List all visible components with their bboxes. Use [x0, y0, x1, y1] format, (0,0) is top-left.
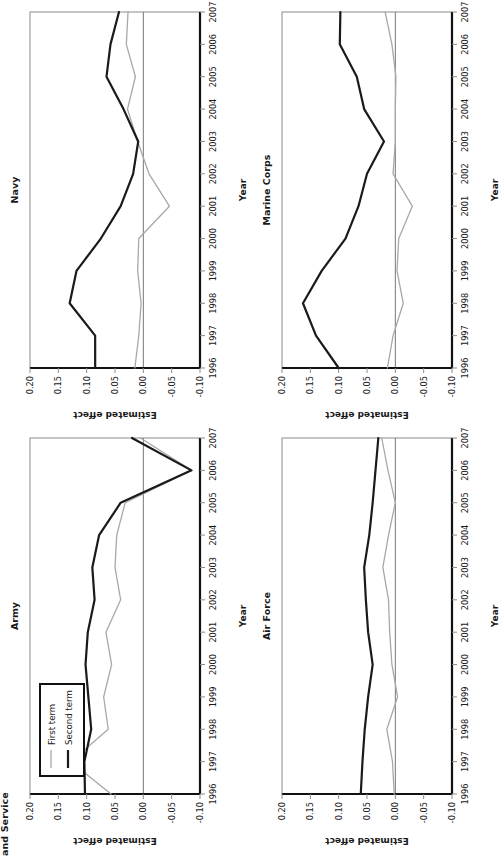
series-line-second-term	[303, 12, 384, 368]
x-tick-label: 1999	[208, 686, 218, 707]
x-tick-label: 2000	[460, 654, 470, 675]
x-tick-label: 2007	[208, 2, 218, 23]
y-tick-label: -0.10	[195, 802, 205, 823]
x-tick-label: 1998	[460, 719, 470, 740]
panel-title: Air Force	[261, 592, 272, 640]
y-axis-label: Estimated effect	[73, 410, 157, 420]
y-tick-label: 0.00	[138, 376, 148, 394]
panel-marine-corps: 0.200.150.100.050.00-0.05-0.101996199719…	[252, 0, 504, 426]
x-tick-label: 2006	[460, 34, 470, 55]
x-tick-label: 2003	[460, 557, 470, 578]
x-tick-label: 2002	[208, 589, 218, 610]
y-tick-label: 0.05	[110, 376, 120, 394]
y-tick-label: 0.15	[305, 802, 315, 820]
y-tick-label: -0.10	[447, 376, 457, 397]
y-tick-label: 0.00	[138, 802, 148, 820]
x-tick-label: 2002	[208, 163, 218, 184]
x-tick-label: 2002	[460, 163, 470, 184]
x-tick-label: 2003	[208, 131, 218, 152]
x-tick-label: 2001	[208, 196, 218, 217]
x-tick-label: 2003	[208, 557, 218, 578]
y-tick-label: 0.10	[334, 802, 344, 820]
x-tick-label: 2000	[460, 228, 470, 249]
x-tick-label: 2006	[208, 460, 218, 481]
x-tick-label: 2001	[460, 196, 470, 217]
y-axis-label: Estimated effect	[325, 836, 409, 846]
x-tick-label: 2007	[460, 2, 470, 23]
x-tick-label: 2005	[460, 66, 470, 87]
x-tick-label: 1997	[208, 751, 218, 772]
y-tick-label: 0.05	[362, 376, 372, 394]
y-tick-label: 0.20	[25, 376, 35, 394]
x-tick-label: 2005	[460, 492, 470, 513]
y-tick-label: -0.05	[419, 802, 429, 823]
x-axis-label: Year	[238, 604, 248, 628]
x-tick-label: 2006	[208, 34, 218, 55]
y-tick-label: -0.05	[167, 376, 177, 397]
x-axis-label: Year	[490, 178, 500, 202]
x-tick-label: 1997	[460, 751, 470, 772]
series-line-first-term	[385, 12, 412, 368]
y-tick-label: 0.10	[82, 376, 92, 394]
y-tick-label: 0.20	[277, 802, 287, 820]
x-tick-label: 1998	[208, 293, 218, 314]
series-line-second-term	[361, 438, 379, 794]
x-tick-label: 2001	[460, 622, 470, 643]
panel-army: 0.200.150.100.050.00-0.05-0.101996199719…	[0, 426, 252, 852]
x-tick-label: 2000	[208, 654, 218, 675]
x-tick-label: 2004	[208, 525, 218, 546]
y-tick-label: 0.00	[390, 802, 400, 820]
y-tick-label: 0.20	[25, 802, 35, 820]
x-tick-label: 2004	[460, 525, 470, 546]
y-tick-label: 0.10	[334, 376, 344, 394]
x-tick-label: 2007	[208, 428, 218, 449]
x-tick-label: 2003	[460, 131, 470, 152]
y-tick-label: -0.05	[419, 376, 429, 397]
x-tick-label: 2004	[208, 99, 218, 120]
x-tick-label: 1998	[208, 719, 218, 740]
y-tick-label: 0.05	[362, 802, 372, 820]
x-tick-label: 1996	[208, 358, 218, 379]
y-tick-label: -0.05	[167, 802, 177, 823]
x-axis-label: Year	[238, 178, 248, 202]
panel-title: Marine Corps	[261, 154, 272, 225]
y-tick-label: 0.15	[53, 802, 63, 820]
series-line-second-term	[84, 438, 191, 794]
legend-label-second-term: Second term	[64, 690, 74, 745]
y-tick-label: 0.00	[390, 376, 400, 394]
x-tick-label: 1999	[208, 260, 218, 281]
x-tick-label: 2002	[460, 589, 470, 610]
x-tick-label: 2005	[208, 492, 218, 513]
y-tick-label: 0.10	[82, 802, 92, 820]
y-tick-label: 0.20	[277, 376, 287, 394]
y-tick-label: 0.05	[110, 802, 120, 820]
plot-frame	[30, 12, 200, 368]
x-tick-label: 2006	[460, 460, 470, 481]
x-tick-label: 2004	[460, 99, 470, 120]
series-line-second-term	[70, 12, 139, 368]
y-axis-label: Estimated effect	[73, 836, 157, 846]
x-tick-label: 1996	[460, 358, 470, 379]
x-tick-label: 1997	[460, 325, 470, 346]
series-line-first-term	[126, 12, 169, 368]
x-tick-label: 1996	[208, 784, 218, 805]
legend-label-first-term: First term	[47, 704, 57, 745]
y-tick-label: 0.15	[305, 376, 315, 394]
panel-title: Army	[9, 601, 20, 630]
x-tick-label: 1999	[460, 686, 470, 707]
y-tick-label: 0.15	[53, 376, 63, 394]
x-tick-label: 1999	[460, 260, 470, 281]
x-tick-label: 1996	[460, 784, 470, 805]
y-tick-label: -0.10	[195, 376, 205, 397]
panel-title: Navy	[9, 176, 20, 204]
x-tick-label: 2001	[208, 622, 218, 643]
panel-air-force: 0.200.150.100.050.00-0.05-0.101996199719…	[252, 426, 504, 852]
x-tick-label: 2005	[208, 66, 218, 87]
panel-navy: 0.200.150.100.050.00-0.05-0.101996199719…	[0, 0, 252, 426]
x-axis-label: Year	[490, 604, 500, 628]
y-axis-label: Estimated effect	[325, 410, 409, 420]
x-tick-label: 1998	[460, 293, 470, 314]
x-tick-label: 2000	[208, 228, 218, 249]
